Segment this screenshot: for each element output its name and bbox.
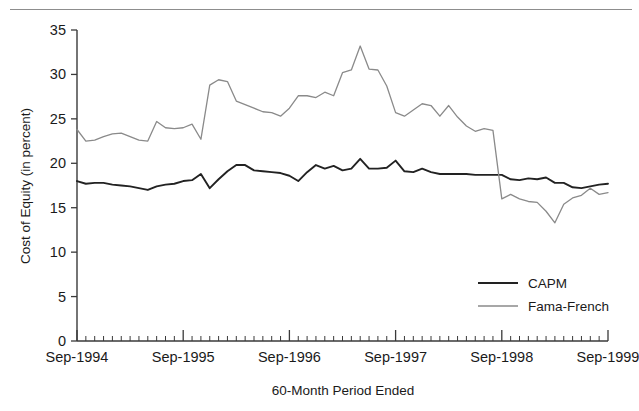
y-tick-label: 20 bbox=[50, 155, 66, 171]
line-chart-svg: 05101520253035 Sep-1994Sep-1995Sep-1996S… bbox=[0, 0, 639, 411]
x-tick-label: Sep-1995 bbox=[152, 349, 215, 365]
legend-label-capm: CAPM bbox=[528, 276, 567, 291]
chart-figure: 05101520253035 Sep-1994Sep-1995Sep-1996S… bbox=[0, 0, 639, 411]
y-tick-label: 10 bbox=[50, 244, 66, 260]
x-tick-label: Sep-1996 bbox=[258, 349, 321, 365]
chart-legend: CAPM Fama-French bbox=[478, 276, 609, 314]
y-axis-tick-labels: 05101520253035 bbox=[50, 22, 66, 349]
data-series-group bbox=[77, 46, 608, 223]
series-line-fama-french bbox=[77, 46, 608, 223]
series-line-capm bbox=[77, 159, 608, 190]
y-tick-label: 15 bbox=[50, 200, 66, 216]
y-tick-label: 5 bbox=[58, 289, 66, 305]
y-tick-label: 30 bbox=[50, 66, 66, 82]
x-tick-label: Sep-1998 bbox=[470, 349, 533, 365]
y-tick-label: 35 bbox=[50, 22, 66, 38]
legend-label-fama-french: Fama-French bbox=[528, 299, 609, 314]
y-tick-label: 25 bbox=[50, 111, 66, 127]
x-axis-ticks bbox=[77, 330, 608, 341]
x-axis-title: 60-Month Period Ended bbox=[272, 383, 415, 398]
x-axis-tick-labels: Sep-1994Sep-1995Sep-1996Sep-1997Sep-1998… bbox=[46, 349, 639, 365]
x-tick-label: Sep-1999 bbox=[577, 349, 639, 365]
x-tick-label: Sep-1994 bbox=[46, 349, 109, 365]
y-tick-label: 0 bbox=[58, 333, 66, 349]
y-axis-ticks bbox=[71, 30, 77, 341]
x-tick-label: Sep-1997 bbox=[364, 349, 427, 365]
y-axis-title: Cost of Equity (in percent) bbox=[18, 108, 33, 264]
